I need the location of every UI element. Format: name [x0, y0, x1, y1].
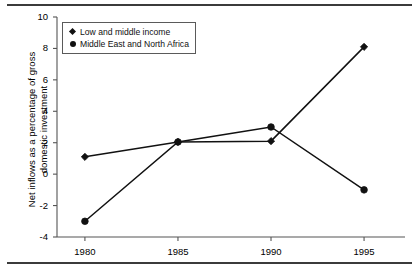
- legend-item: Low and middle income: [67, 26, 189, 38]
- data-point-marker: [175, 139, 182, 146]
- x-tick-label: 1980: [65, 246, 105, 257]
- legend-item-label: Low and middle income: [79, 27, 170, 37]
- legend-item-label: Middle East and North Africa: [79, 39, 189, 49]
- y-tick-label: 2: [24, 137, 48, 148]
- y-tick-label: 8: [24, 42, 48, 53]
- x-tick-label: 1995: [344, 246, 384, 257]
- y-tick-label: 6: [24, 74, 48, 85]
- circle-marker-icon: [67, 38, 79, 50]
- y-tick-label: -4: [24, 231, 48, 242]
- x-tick-label: 1990: [251, 246, 291, 257]
- data-point-marker: [268, 124, 275, 131]
- y-tick-label: 4: [24, 105, 48, 116]
- y-tick-label: 0: [24, 168, 48, 179]
- data-point-marker: [361, 187, 368, 194]
- y-tick-label: 10: [24, 11, 48, 22]
- data-point-marker: [82, 218, 89, 225]
- figure-container: Net inflows as a percentage of gross dom…: [0, 0, 419, 271]
- y-tick-label: -2: [24, 200, 48, 211]
- legend-item: Middle East and North Africa: [67, 38, 189, 50]
- diamond-marker-icon: [67, 26, 79, 38]
- data-point-marker: [81, 153, 88, 160]
- x-tick-label: 1985: [158, 246, 198, 257]
- chart-legend: Low and middle incomeMiddle East and Nor…: [62, 22, 196, 54]
